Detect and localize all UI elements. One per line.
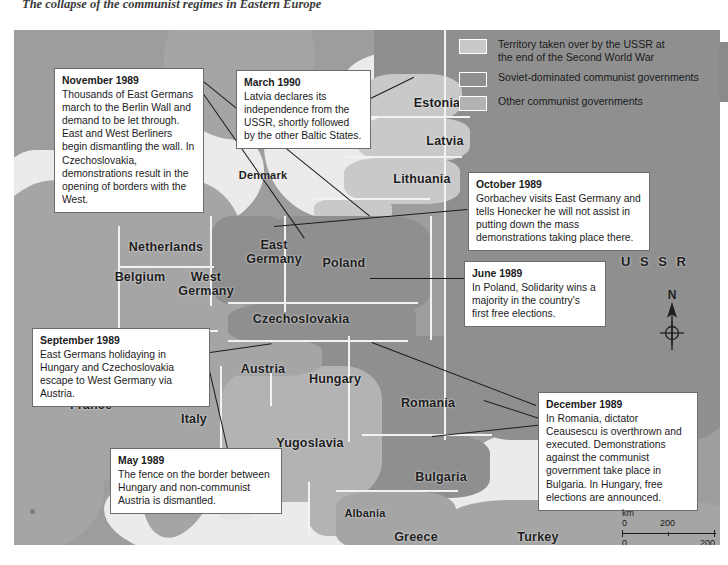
scale-km-zero: 0 — [622, 518, 627, 528]
scale-bar: km 0 200 0 200 miles — [622, 508, 720, 545]
border-line — [362, 434, 492, 436]
legend-label: Territory taken over by the USSR at the … — [498, 38, 665, 63]
callout-december-1989[interactable]: December 1989In Romania, dictator Ceause… — [538, 392, 698, 511]
callout-heading: March 1990 — [244, 76, 363, 89]
country-label-romania: Romania — [386, 396, 470, 410]
page-edge-tab — [719, 42, 728, 102]
callout-body: The fence on the border between Hungary … — [118, 468, 274, 507]
legend-item: Other communist governments — [459, 95, 719, 111]
scale-km-caption: km — [622, 508, 720, 518]
callout-march-1990[interactable]: March 1990Latvia declares its independen… — [236, 70, 371, 149]
country-label-italy: Italy — [164, 412, 224, 426]
decorative-dot — [30, 509, 35, 514]
border-line — [336, 490, 458, 492]
border-line — [308, 482, 310, 536]
border-line — [228, 302, 418, 304]
legend-swatch-ussr-annexed — [459, 39, 487, 54]
country-label-czechoslovakia: Czechoslovakia — [238, 312, 364, 326]
legend-swatch-other-communist — [459, 96, 487, 111]
country-label-netherlands: Netherlands — [112, 240, 220, 254]
callout-september-1989[interactable]: September 1989East Germans holidaying in… — [32, 328, 210, 407]
scale-miles-numbers: 0 200 — [622, 538, 720, 545]
callout-heading: June 1989 — [472, 267, 598, 280]
border-line — [444, 30, 446, 440]
border-line — [358, 116, 470, 118]
map-legend: Territory taken over by the USSR at the … — [459, 38, 719, 119]
legend-item: Territory taken over by the USSR at the … — [459, 38, 719, 63]
country-label-greece: Greece — [382, 530, 450, 544]
country-label-turkey: Turkey — [506, 530, 570, 544]
scale-ruler — [622, 530, 720, 537]
country-label-u-s-s-r: U S S R — [610, 255, 700, 269]
scale-km-max: 200 — [660, 518, 675, 528]
border-line — [118, 266, 214, 268]
callout-heading: September 1989 — [40, 334, 202, 347]
country-label-lithuania: Lithuania — [374, 172, 470, 186]
country-label-east-germany: East Germany — [236, 238, 312, 266]
legend-swatch-soviet-dominated — [459, 72, 487, 87]
border-line — [348, 336, 350, 442]
scale-km-numbers: 0 200 — [622, 518, 720, 529]
country-label-bulgaria: Bulgaria — [402, 470, 480, 484]
country-label-latvia: Latvia — [410, 134, 480, 148]
callout-heading: December 1989 — [546, 398, 690, 411]
callout-heading: May 1989 — [118, 454, 274, 467]
border-line — [228, 340, 408, 342]
leader-line-june — [370, 278, 464, 279]
callout-body: In Poland, Solidarity wins a majority in… — [472, 281, 598, 320]
compass-rose: N — [652, 288, 692, 350]
legend-label: Soviet-dominated communist governments — [498, 71, 699, 84]
callout-body: East Germans holidaying in Hungary and C… — [40, 348, 202, 400]
country-label-poland: Poland — [304, 256, 384, 270]
country-label-denmark: Denmark — [220, 168, 306, 182]
callout-body: Gorbachev visits East Germany and tells … — [476, 192, 642, 244]
callout-heading: November 1989 — [62, 74, 196, 87]
compass-north-label: N — [652, 288, 692, 302]
country-label-west-germany: West Germany — [166, 270, 246, 298]
legend-label: Other communist governments — [498, 95, 643, 108]
scale-miles-max: 200 — [700, 538, 715, 545]
callout-body: In Romania, dictator Ceausescu is overth… — [546, 412, 690, 504]
border-line — [314, 198, 430, 200]
callout-october-1989[interactable]: October 1989Gorbachev visits East German… — [468, 172, 650, 251]
callout-may-1989[interactable]: May 1989The fence on the border between … — [110, 448, 282, 514]
callout-november-1989[interactable]: November 1989Thousands of East Germans m… — [54, 68, 204, 213]
callout-body: Latvia declares its independence from th… — [244, 90, 363, 142]
legend-item: Soviet-dominated communist governments — [459, 71, 719, 87]
country-label-albania: Albania — [330, 506, 400, 520]
callout-june-1989[interactable]: June 1989In Poland, Solidarity wins a ma… — [464, 261, 606, 327]
callout-body: Thousands of East Germans march to the B… — [62, 88, 196, 206]
scale-miles-zero: 0 — [622, 538, 627, 545]
callout-heading: October 1989 — [476, 178, 642, 191]
country-label-austria: Austria — [228, 362, 298, 376]
country-label-hungary: Hungary — [294, 372, 376, 386]
page-title: The collapse of the communist regimes in… — [22, 0, 522, 13]
iberia-landmass — [14, 410, 104, 545]
map-figure: EstoniaLatviaLithuaniaDenmarkNetherlands… — [14, 30, 720, 545]
